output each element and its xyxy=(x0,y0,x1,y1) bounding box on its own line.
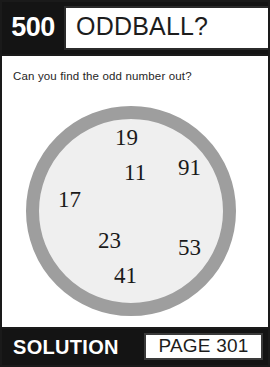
prompt-text: Can you find the odd number out? xyxy=(13,70,192,82)
card-body: Can you find the odd number out? 19 91 1… xyxy=(2,54,268,327)
number-item: 11 xyxy=(124,161,146,184)
number-item: 17 xyxy=(58,188,81,211)
puzzle-card: 500 ODDBALL? Can you find the odd number… xyxy=(0,0,270,367)
number-circle: 19 91 11 17 23 53 41 xyxy=(26,106,236,316)
page-reference-text: PAGE 301 xyxy=(159,335,249,359)
card-header: 500 ODDBALL? xyxy=(2,2,268,54)
number-item: 53 xyxy=(178,236,201,259)
number-item: 19 xyxy=(115,126,138,149)
page-title: ODDBALL? xyxy=(66,14,208,42)
number-item: 41 xyxy=(114,264,137,287)
page-reference-box[interactable]: PAGE 301 xyxy=(144,333,263,360)
puzzle-number-badge: 500 xyxy=(2,2,64,54)
title-box: ODDBALL? xyxy=(64,6,268,50)
number-item: 23 xyxy=(98,229,121,252)
number-item: 91 xyxy=(178,156,201,179)
solution-label: SOLUTION xyxy=(2,329,144,365)
card-footer: SOLUTION PAGE 301 xyxy=(2,327,268,365)
